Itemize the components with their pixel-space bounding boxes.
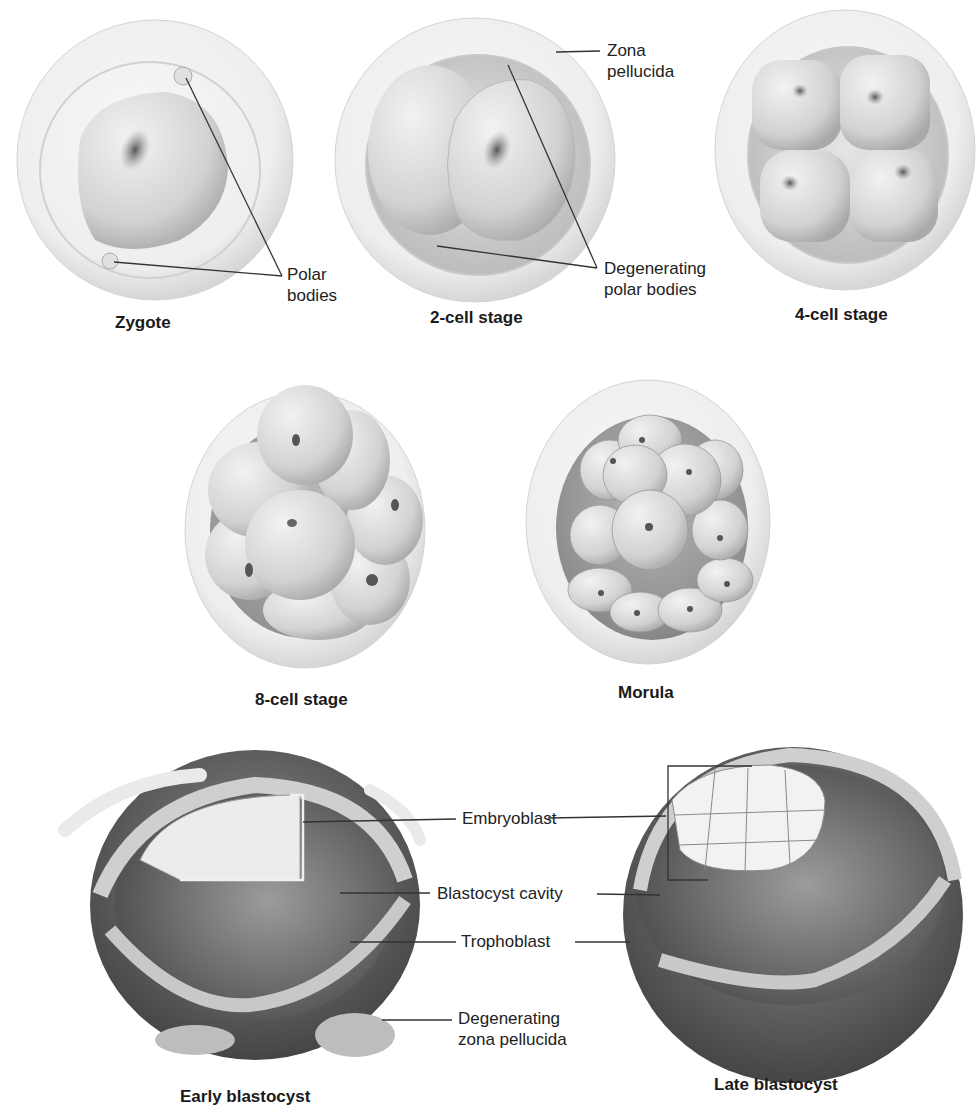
caption-four-cell: 4-cell stage (795, 305, 888, 325)
eight-cell-illustration (185, 385, 425, 668)
caption-early-blastocyst: Early blastocyst (180, 1087, 310, 1105)
late-blastocyst-illustration (548, 747, 963, 1083)
two-cell-illustration (335, 18, 615, 302)
label-blastocyst-cavity: Blastocyst cavity (437, 883, 563, 904)
embryoblast-leader (548, 816, 666, 818)
caption-two-cell: 2-cell stage (430, 308, 523, 328)
zygote-illustration (17, 20, 293, 300)
label-trophoblast: Trophoblast (461, 931, 550, 952)
label-embryoblast: Embryoblast (462, 808, 556, 829)
caption-morula: Morula (618, 683, 674, 703)
label-polar-bodies: Polar bodies (287, 264, 337, 306)
caption-zygote: Zygote (115, 313, 171, 333)
label-degenerating-polar-bodies: Degenerating polar bodies (604, 258, 706, 300)
early-blastocyst-illustration (65, 750, 456, 1060)
caption-late-blastocyst: Late blastocyst (714, 1075, 838, 1095)
label-zona-pellucida: Zona pellucida (607, 40, 674, 82)
four-cell-illustration (715, 10, 975, 290)
caption-eight-cell: 8-cell stage (255, 690, 348, 710)
morula-illustration (526, 380, 770, 664)
label-degenerating-zona-pellucida: Degenerating zona pellucida (458, 1008, 567, 1050)
